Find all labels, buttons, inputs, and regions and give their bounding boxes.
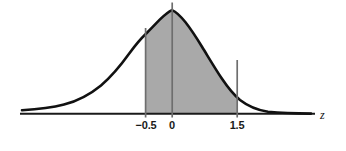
tick-label-one-point-five: 1.5 — [223, 119, 251, 131]
shaded-area-region — [146, 10, 238, 113]
axis-label-z: z — [320, 108, 325, 123]
tick-label-zero: 0 — [160, 119, 184, 131]
normal-curve-figure: −0.5 0 1.5 z — [0, 0, 346, 151]
tick-label-neg-half: −0.5 — [129, 119, 163, 131]
